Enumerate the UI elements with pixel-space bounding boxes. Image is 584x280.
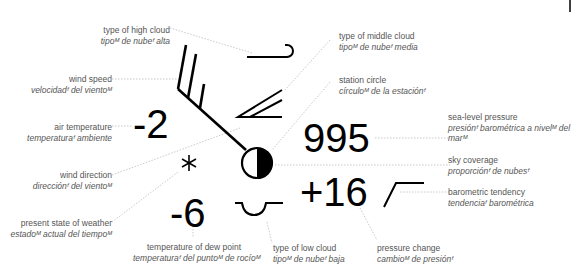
label-station-circle: station circle círculoᴹ de la estaciónᶠ	[339, 75, 425, 96]
label-sea-level-pressure: sea-level pressure presiónᶠ barométrica …	[448, 112, 570, 144]
wind-barb-icon	[178, 45, 246, 150]
leader-high-cloud	[170, 28, 252, 53]
high-cloud-icon	[247, 45, 293, 57]
label-barometric-tendency: barometric tendency tendenciaᶠ barométri…	[448, 187, 534, 208]
leader-wind-direction	[112, 128, 240, 175]
pressure-change-value: +16	[300, 172, 368, 212]
middle-cloud-icon	[238, 90, 282, 117]
label-wind-speed: wind speed velocidadᶠ del vientoᴹ	[31, 74, 112, 95]
label-sky-coverage: sky coverage proporciónᶠ de nubesᶠ	[448, 155, 529, 176]
label-middle-cloud: type of middle cloud tipoᴹ de nubeᶠ medi…	[339, 31, 418, 52]
barometric-tendency-icon	[384, 183, 424, 207]
label-high-cloud: type of high cloud tipoᴹ de nubeᶠ alta	[101, 25, 170, 46]
label-present-weather: present state of weather estadoᴹ actual …	[10, 218, 112, 239]
sea-level-pressure-value: 995	[303, 118, 370, 158]
present-weather-icon	[182, 155, 196, 171]
label-air-temperature: air temperature temperaturaᶠ ambiente	[27, 122, 112, 143]
low-cloud-icon	[235, 203, 283, 215]
label-low-cloud: type of low cloud tipoᴹ de nubeᶠ baja	[273, 243, 345, 264]
leader-low-cloud	[267, 222, 272, 243]
sky-coverage-icon	[242, 148, 272, 178]
label-wind-direction: wind direction direcciónᶠ del vientoᴹ	[33, 170, 112, 191]
leader-present-weather	[112, 172, 178, 222]
air-temperature-value: -2	[133, 104, 169, 144]
dew-point-value: -6	[170, 193, 206, 233]
label-pressure-change: pressure change cambioᴹ de presiónᶠ	[377, 243, 453, 264]
label-dew-point: temperature of dew point temperaturaᶠ de…	[133, 242, 255, 263]
